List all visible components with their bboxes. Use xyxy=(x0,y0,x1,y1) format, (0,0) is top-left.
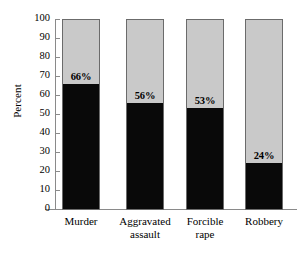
y-tick-20 xyxy=(55,171,60,172)
y-tick-0 xyxy=(55,209,60,210)
bar-segment-known-0 xyxy=(63,84,99,209)
y-tick-label-70: 70 xyxy=(14,70,50,80)
bar-segment-known-3 xyxy=(246,163,282,209)
stacked-bar-0[interactable] xyxy=(62,19,100,210)
y-tick-label-90: 90 xyxy=(14,32,50,42)
bar-value-label-1: 56% xyxy=(126,90,164,101)
y-tick-label-40: 40 xyxy=(14,127,50,137)
y-tick-label-60: 60 xyxy=(14,89,50,99)
y-tick-label-100: 100 xyxy=(14,13,50,23)
bar-segment-known-1 xyxy=(127,103,163,209)
y-tick-label-80: 80 xyxy=(14,51,50,61)
category-label-3: Robbery xyxy=(226,215,302,228)
y-tick-90 xyxy=(55,38,60,39)
y-tick-40 xyxy=(55,133,60,134)
y-tick-10 xyxy=(55,190,60,191)
bar-value-label-2: 53% xyxy=(186,95,224,106)
chart-title-strip: Relation to Victim xyxy=(0,0,302,2)
y-tick-60 xyxy=(55,95,60,96)
y-tick-label-0: 0 xyxy=(14,203,50,213)
bar-value-label-0: 66% xyxy=(62,71,100,82)
y-tick-label-50: 50 xyxy=(14,108,50,118)
stacked-bar-2[interactable] xyxy=(186,19,224,210)
y-tick-label-30: 30 xyxy=(14,146,50,156)
stacked-bar-3[interactable] xyxy=(245,19,283,210)
chart-figure: Relation to Victim Percent 1009080706050… xyxy=(0,0,302,254)
stacked-bar-1[interactable] xyxy=(126,19,164,210)
y-tick-30 xyxy=(55,152,60,153)
y-tick-label-10: 10 xyxy=(14,184,50,194)
y-tick-70 xyxy=(55,76,60,77)
bar-segment-known-2 xyxy=(187,108,223,209)
y-tick-80 xyxy=(55,57,60,58)
y-axis-title: Percent xyxy=(11,71,23,131)
y-tick-label-20: 20 xyxy=(14,165,50,175)
bar-value-label-3: 24% xyxy=(245,150,283,161)
y-tick-100 xyxy=(55,19,60,20)
y-tick-50 xyxy=(55,114,60,115)
